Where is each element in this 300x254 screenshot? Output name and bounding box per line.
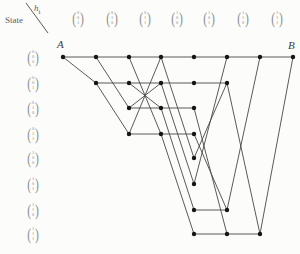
vector-digits: 011 (32, 127, 34, 141)
vector-digit: 0 (242, 20, 244, 25)
open-paren: ( (27, 202, 31, 219)
trellis-node (192, 156, 196, 160)
trellis-node (192, 81, 196, 85)
vector-digits: 010 (32, 101, 34, 115)
trellis-node (225, 55, 229, 59)
hi-vector-3: (011) (138, 10, 151, 27)
vector-digits: 001 (77, 11, 79, 25)
close-paren: ) (211, 10, 215, 27)
vector-digit: 1 (32, 136, 34, 141)
open-paren: ( (72, 10, 76, 27)
hi-vector-2: (010) (105, 10, 118, 27)
close-paren: ) (35, 100, 39, 117)
close-paren: ) (245, 10, 249, 27)
open-paren: ( (237, 10, 241, 27)
vector-digits: 111 (32, 227, 34, 241)
trellis-node (258, 55, 262, 59)
state-vector-4: (100) (26, 150, 39, 167)
end-node-label: B (288, 39, 295, 51)
vector-digits: 101 (32, 177, 34, 191)
trellis-node (192, 106, 196, 110)
vector-digit: 0 (111, 20, 113, 25)
trellis-node (258, 232, 262, 236)
trellis-node (94, 55, 98, 59)
vector-digit: 1 (32, 186, 34, 191)
vector-digits: 100 (32, 151, 34, 165)
close-paren: ) (35, 150, 39, 167)
hi-vector-7: (111) (270, 10, 283, 27)
trellis-node (127, 106, 131, 110)
vector-digits: 110 (32, 203, 34, 217)
vector-digit: 0 (32, 160, 34, 165)
open-paren: ( (106, 10, 110, 27)
vector-digit: 0 (176, 20, 178, 25)
close-paren: ) (35, 126, 39, 143)
trellis-node (192, 132, 196, 136)
hi-vector-6: (110) (236, 10, 249, 27)
trellis-node (61, 55, 65, 59)
close-paren: ) (35, 226, 39, 243)
state-vector-6: (110) (26, 202, 39, 219)
hi-axis-label: hi (34, 3, 40, 16)
trellis-node (192, 208, 196, 212)
trellis-edge (260, 57, 293, 234)
trellis-edge (161, 57, 194, 158)
hi-vector-4: (100) (170, 10, 183, 27)
trellis-edge (227, 83, 260, 234)
open-paren: ( (27, 176, 31, 193)
trellis-node (159, 55, 163, 59)
trellis-edge (96, 57, 129, 108)
trellis-edge (161, 108, 194, 210)
open-paren: ( (27, 150, 31, 167)
state-vector-0: (000) (26, 49, 39, 66)
trellis-node (192, 232, 196, 236)
state-vector-7: (111) (26, 226, 39, 243)
vector-digit: 0 (32, 59, 34, 64)
close-paren: ) (35, 75, 39, 92)
open-paren: ( (27, 100, 31, 117)
trellis-edge (194, 83, 227, 158)
state-axis-label: State (5, 15, 23, 25)
trellis-edge (63, 57, 96, 83)
vector-digit: 0 (32, 110, 34, 115)
close-paren: ) (179, 10, 183, 27)
vector-digit: 1 (144, 20, 146, 25)
vector-digits: 110 (242, 11, 244, 25)
vector-digits: 000 (32, 50, 34, 64)
open-paren: ( (27, 75, 31, 92)
open-paren: ( (171, 10, 175, 27)
state-vector-2: (010) (26, 100, 39, 117)
trellis-edge (96, 83, 129, 134)
vector-digits: 011 (144, 11, 146, 25)
vector-digit: 1 (276, 20, 278, 25)
trellis-node (127, 81, 131, 85)
vector-digits: 001 (32, 76, 34, 90)
trellis-edge (161, 134, 194, 234)
close-paren: ) (35, 202, 39, 219)
close-paren: ) (35, 49, 39, 66)
close-paren: ) (147, 10, 151, 27)
trellis-graph (0, 0, 300, 254)
trellis-node (225, 232, 229, 236)
vector-digit: 0 (32, 212, 34, 217)
state-vector-5: (101) (26, 176, 39, 193)
trellis-diagram-figure: State hi A B (001)(010)(011)(100)(101)(1… (0, 0, 300, 254)
vector-digits: 111 (276, 11, 278, 25)
close-paren: ) (35, 176, 39, 193)
trellis-node (192, 55, 196, 59)
hi-subscript: i (39, 8, 41, 16)
vector-digits: 100 (176, 11, 178, 25)
hi-vector-5: (101) (202, 10, 215, 27)
trellis-node (192, 182, 196, 186)
trellis-node (94, 81, 98, 85)
vector-digit: 1 (208, 20, 210, 25)
open-paren: ( (27, 126, 31, 143)
state-vector-1: (001) (26, 75, 39, 92)
close-paren: ) (279, 10, 283, 27)
vector-digit: 1 (77, 20, 79, 25)
open-paren: ( (27, 49, 31, 66)
hi-vector-1: (001) (71, 10, 84, 27)
open-paren: ( (27, 226, 31, 243)
close-paren: ) (80, 10, 84, 27)
trellis-node (225, 81, 229, 85)
